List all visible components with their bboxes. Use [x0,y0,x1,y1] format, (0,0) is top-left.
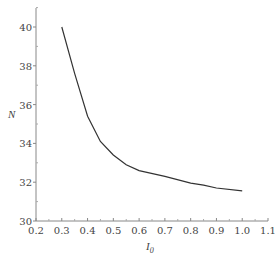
x-axis-title: I0 [145,240,154,255]
y-tick-label: 32 [19,177,32,188]
y-tick-label: 34 [19,138,32,149]
x-tick-label: 0.4 [80,225,96,236]
y-axis-title: N [7,108,16,120]
x-tick-label: 0.7 [157,225,173,236]
line-chart: 303234363840 0.20.30.40.50.60.70.80.91.0… [0,0,278,256]
x-tick-label: 0.3 [54,225,70,236]
x-axis: 0.20.30.40.50.60.70.80.91.01.1 [28,218,276,236]
x-tick-label: 0.6 [131,225,147,236]
x-tick-label: 0.5 [105,225,121,236]
x-tick-label: 0.9 [208,225,224,236]
x-tick-label: 1.0 [234,225,250,236]
y-tick-label: 38 [19,61,32,72]
x-tick-label: 0.2 [28,225,44,236]
data-curve [62,27,242,191]
x-tick-label: 0.8 [183,225,199,236]
y-tick-label: 40 [19,22,32,33]
y-tick-label: 36 [19,100,32,111]
x-tick-label: 1.1 [260,225,276,236]
y-axis: 303234363840 [19,8,38,227]
